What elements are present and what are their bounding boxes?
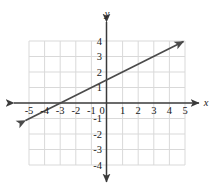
x-tick-label: 3	[151, 105, 156, 116]
y-tick-label: -2	[93, 129, 102, 140]
y-tick-label: 2	[97, 67, 102, 78]
x-tick-label: 1	[120, 105, 125, 116]
x-axis-label: x	[203, 97, 209, 108]
x-tick-label: -4	[40, 105, 49, 116]
x-tick-label: 4	[167, 105, 173, 116]
coordinate-plane-figure: -5 -4 -3 -2 -1 0 1 2 3 4 5 -4 -3 -2 -1 1…	[0, 0, 217, 190]
y-tick-label: 3	[97, 51, 102, 62]
x-tick-label: -2	[71, 105, 80, 116]
x-tick-label: -3	[56, 105, 65, 116]
graph-canvas: -5 -4 -3 -2 -1 0 1 2 3 4 5 -4 -3 -2 -1 1…	[0, 0, 217, 190]
y-tick-label: -1	[93, 113, 102, 124]
x-tick-label: -5	[25, 105, 34, 116]
x-tick-label: 5	[182, 105, 187, 116]
y-tick-label: 4	[97, 36, 103, 47]
y-tick-label: 1	[97, 82, 102, 93]
y-tick-label: -4	[93, 160, 102, 171]
y-axis-label: y	[104, 8, 110, 19]
x-tick-label: 2	[136, 105, 141, 116]
y-tick-label: -3	[93, 144, 102, 155]
